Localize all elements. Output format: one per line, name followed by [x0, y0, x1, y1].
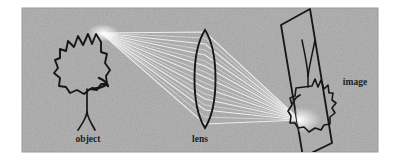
object-apex-glow: [87, 24, 119, 42]
label-image: image: [343, 77, 367, 87]
optics-figure: object lens image: [0, 0, 395, 161]
label-object: object: [76, 134, 102, 144]
label-lens: lens: [192, 134, 208, 144]
optics-diagram-canvas: object lens image: [0, 0, 395, 161]
